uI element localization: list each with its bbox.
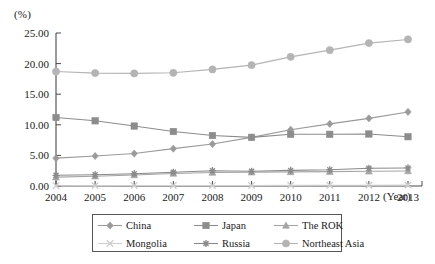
y-tick-label: 15.00 <box>24 88 49 100</box>
data-point-marker <box>248 168 255 175</box>
data-point-marker <box>209 167 216 174</box>
y-tick-label: 20.00 <box>24 58 49 70</box>
legend-item-mongolia[interactable]: Mongolia <box>97 238 193 249</box>
x-tick-label: 2011 <box>319 191 341 203</box>
data-point-marker <box>327 131 333 137</box>
data-point-marker <box>170 145 176 152</box>
legend-marker-circle-icon <box>273 238 299 249</box>
chart-legend: ChinaJapanThe ROKMongoliaRussiaNortheast… <box>92 214 342 252</box>
x-axis-labels: 2004200520062007200820092010201120122013 <box>45 191 420 203</box>
legend-item-russia[interactable]: Russia <box>193 238 273 249</box>
chart-root: (%) 200420052006200720082009201020112012… <box>0 0 435 264</box>
data-point-marker <box>92 69 99 76</box>
legend-marker-star-icon <box>193 238 219 249</box>
series-northeast-asia <box>52 36 411 77</box>
data-point-marker <box>405 134 411 140</box>
data-point-marker <box>131 70 138 77</box>
legend-label: The ROK <box>302 220 343 231</box>
data-point-marker <box>287 131 293 137</box>
legend-marker-diamond-icon <box>97 220 123 231</box>
y-tick-label: 5.00 <box>30 149 50 161</box>
data-point-marker <box>170 169 177 176</box>
x-tick-label: 2012 <box>358 191 380 203</box>
data-point-marker <box>209 140 215 147</box>
data-point-marker <box>365 165 372 172</box>
data-point-marker <box>170 128 176 134</box>
data-point-marker <box>131 123 137 129</box>
data-point-marker <box>209 66 216 73</box>
series-china <box>53 108 411 161</box>
data-point-marker <box>404 36 411 43</box>
legend-item-japan[interactable]: Japan <box>193 220 273 231</box>
legend-label: China <box>126 220 151 231</box>
series-layer <box>52 36 411 189</box>
data-point-marker <box>287 167 294 174</box>
series-line <box>56 39 408 73</box>
x-tick-label: 2009 <box>241 191 264 203</box>
series-line <box>56 185 408 186</box>
x-tick-label: 2010 <box>280 191 303 203</box>
legend-label: Northeast Asia <box>302 238 364 249</box>
data-point-marker <box>92 171 99 178</box>
legend-marker-square-icon <box>193 220 219 231</box>
legend-marker-x-icon <box>97 238 123 249</box>
legend-item-northeast-asia[interactable]: Northeast Asia <box>273 238 364 249</box>
y-axis-ticks <box>56 33 61 186</box>
legend-marker-triangle-icon <box>273 220 299 231</box>
series-the-rok <box>53 167 412 180</box>
series-japan <box>53 114 411 140</box>
data-point-marker <box>405 108 411 115</box>
data-point-marker <box>203 222 209 228</box>
data-point-marker <box>326 47 333 54</box>
legend-item-china[interactable]: China <box>97 220 193 231</box>
data-point-marker <box>92 118 98 124</box>
x-tick-label: 2008 <box>201 191 224 203</box>
y-axis-labels: 0.005.0010.0015.0020.0025.00 <box>24 27 49 192</box>
data-point-marker <box>405 164 412 171</box>
y-tick-label: 10.00 <box>24 119 49 131</box>
x-axis-unit-label: (Year) <box>383 190 411 202</box>
legend-label: Russia <box>222 238 250 249</box>
series-line <box>56 112 408 158</box>
data-point-marker <box>282 239 289 246</box>
data-point-marker <box>287 53 294 60</box>
x-tick-label: 2004 <box>45 191 68 203</box>
data-point-marker <box>52 68 59 75</box>
data-point-marker <box>248 62 255 69</box>
legend-item-the-rok[interactable]: The ROK <box>273 220 364 231</box>
x-tick-label: 2005 <box>84 191 107 203</box>
x-tick-label: 2007 <box>162 191 185 203</box>
data-point-marker <box>53 172 60 179</box>
data-point-marker <box>107 221 113 228</box>
data-point-marker <box>92 152 98 159</box>
data-point-marker <box>131 150 137 157</box>
data-point-marker <box>170 69 177 76</box>
data-point-marker <box>326 166 333 173</box>
data-point-marker <box>365 39 372 46</box>
data-point-marker <box>366 131 372 137</box>
y-tick-label: 25.00 <box>24 27 49 39</box>
data-point-marker <box>131 170 138 177</box>
data-point-marker <box>209 132 215 138</box>
data-point-marker <box>327 120 333 127</box>
series-mongolia <box>53 182 411 189</box>
data-point-marker <box>203 239 210 246</box>
legend-label: Japan <box>222 220 246 231</box>
data-point-marker <box>248 134 254 140</box>
y-tick-label: 0.00 <box>30 180 50 192</box>
data-point-marker <box>53 114 59 120</box>
legend-label: Mongolia <box>126 238 167 249</box>
x-tick-label: 2006 <box>123 191 146 203</box>
data-point-marker <box>366 115 372 122</box>
